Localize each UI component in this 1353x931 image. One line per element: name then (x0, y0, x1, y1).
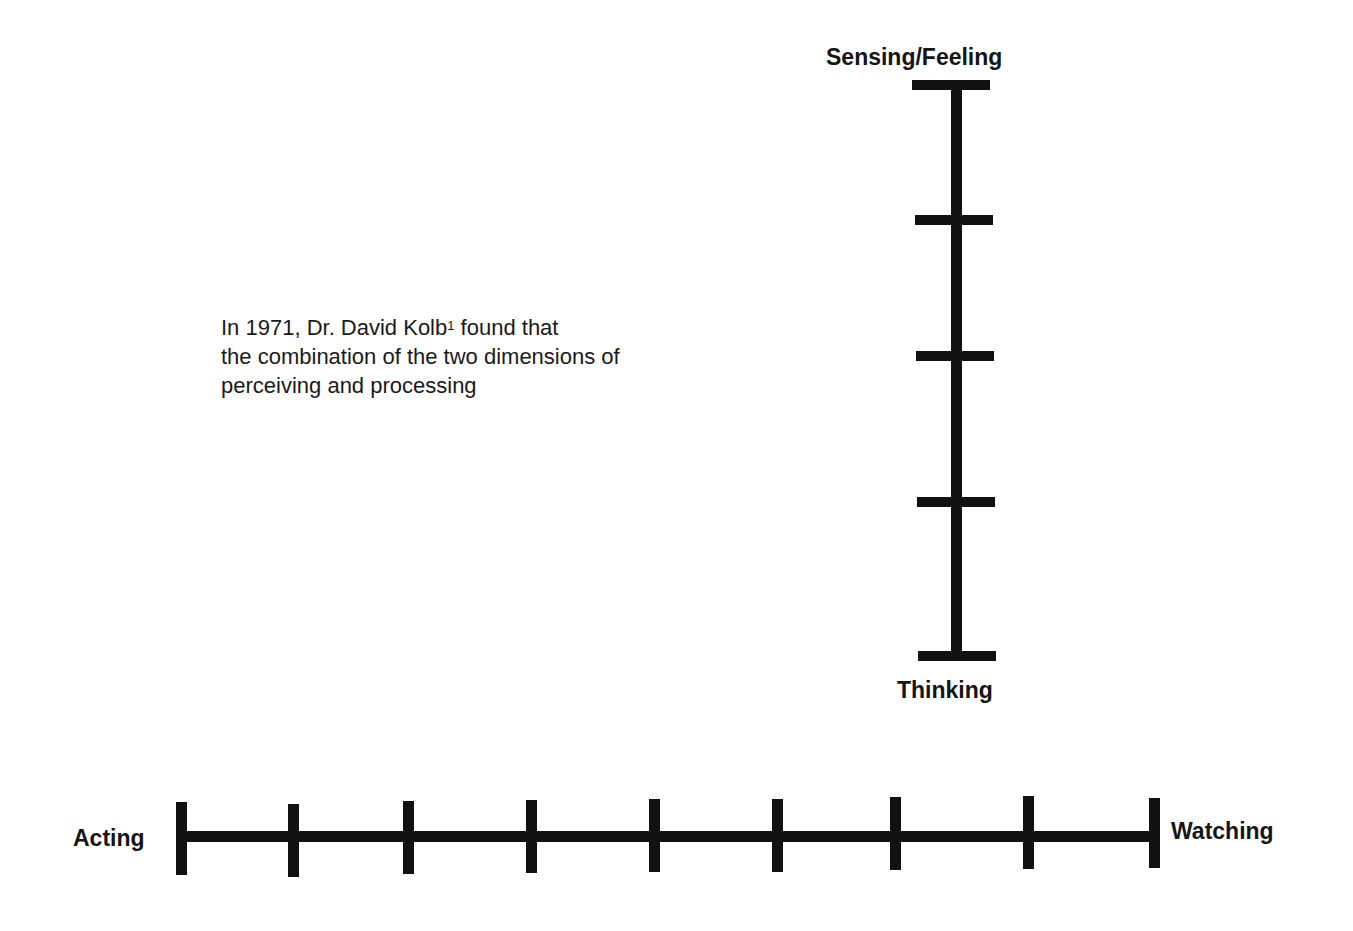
horizontal-tick-7 (890, 797, 901, 870)
horizontal-tick-5 (649, 799, 660, 872)
vertical-tick-3 (916, 351, 994, 361)
horizontal-tick-6 (772, 799, 783, 872)
horizontal-tick-4 (526, 800, 537, 873)
vertical-tick-top (912, 80, 990, 90)
vertical-axis (912, 80, 996, 661)
horizontal-tick-1 (176, 802, 187, 875)
horizontal-tick-8 (1023, 796, 1034, 869)
horizontal-axis (176, 796, 1160, 877)
vertical-tick-2 (915, 215, 993, 225)
horizontal-tick-2 (288, 804, 299, 877)
horizontal-tick-9 (1149, 798, 1160, 868)
axes-diagram (0, 0, 1353, 931)
vertical-tick-4 (917, 497, 995, 507)
vertical-tick-bottom (918, 651, 996, 661)
horizontal-tick-3 (403, 801, 414, 874)
